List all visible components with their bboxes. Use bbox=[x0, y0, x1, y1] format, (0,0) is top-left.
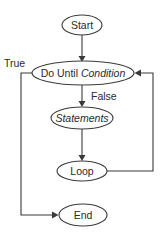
node-condition-label: Condition bbox=[81, 67, 126, 79]
node-loop-label: Loop bbox=[70, 165, 94, 177]
true-label: True bbox=[4, 57, 25, 69]
node-statements-label: Statements bbox=[55, 112, 109, 124]
flowchart: True False Start Do Until Condition Stat… bbox=[0, 0, 165, 238]
node-end: End bbox=[59, 204, 107, 226]
edge-condition-to-statements bbox=[79, 85, 86, 107]
edge-statements-to-loop bbox=[79, 129, 86, 161]
node-statements: Statements bbox=[51, 107, 113, 129]
edge-loop-back-to-condition bbox=[107, 70, 153, 172]
edge-start-to-condition bbox=[79, 35, 86, 62]
node-start: Start bbox=[62, 15, 102, 35]
false-label: False bbox=[91, 90, 117, 102]
edge-condition-true-to-end bbox=[21, 73, 59, 219]
node-loop: Loop bbox=[57, 161, 107, 181]
node-condition-prefix: Do Until bbox=[41, 67, 81, 79]
node-start-label: Start bbox=[71, 19, 93, 31]
node-condition: Do Until Condition bbox=[32, 61, 134, 85]
node-condition-text: Do Until Condition bbox=[41, 67, 126, 79]
node-end-label: End bbox=[74, 209, 93, 221]
